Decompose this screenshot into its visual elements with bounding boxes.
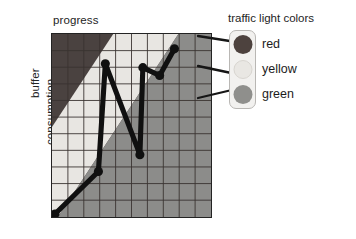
- legend-label-green: green: [262, 87, 294, 101]
- plot-area: [51, 33, 212, 218]
- figure-canvas: progress buffer consumption: [0, 0, 356, 239]
- y-axis-label-line1: buffer: [29, 68, 41, 98]
- legend-title: traffic light colors: [228, 12, 314, 24]
- legend-label-red: red: [262, 37, 280, 51]
- plot-svg: [52, 34, 211, 217]
- x-axis-label: progress: [53, 14, 99, 26]
- traffic-light-lamp-green: [233, 85, 252, 104]
- legend-label-yellow: yellow: [262, 62, 297, 76]
- traffic-light-housing: [229, 30, 256, 109]
- traffic-light-lamp-red: [233, 35, 252, 54]
- traffic-light-lamp-yellow: [233, 60, 252, 79]
